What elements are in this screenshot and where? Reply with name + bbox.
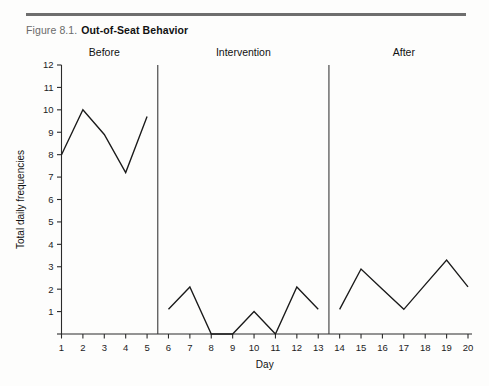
x-tick-label: 12 [292, 342, 303, 353]
y-axis-ticks [57, 65, 62, 334]
line-chart: 123456789101112 123456789101112131415161… [0, 40, 489, 386]
x-tick-label: 14 [334, 342, 345, 353]
x-tick-label: 10 [249, 342, 260, 353]
x-axis-ticks [62, 334, 469, 339]
y-tick-label: 5 [48, 216, 53, 227]
y-tick-label: 7 [48, 171, 53, 182]
x-tick-label: 2 [80, 342, 85, 353]
x-tick-label: 17 [399, 342, 410, 353]
y-tick-label: 12 [43, 59, 54, 70]
x-axis-title: Day [256, 359, 274, 370]
x-tick-label: 1 [59, 342, 64, 353]
x-tick-label: 5 [144, 342, 149, 353]
data-series-group [62, 110, 469, 334]
figure-page: Figure 8.1.Out-of-Seat Behavior 12345678… [0, 0, 489, 386]
x-tick-label: 19 [441, 342, 452, 353]
y-tick-label: 3 [48, 261, 53, 272]
y-tick-label: 6 [48, 194, 53, 205]
x-tick-label: 9 [230, 342, 235, 353]
y-axis-title: Total daily frequencies [15, 150, 26, 249]
phase-label-after: After [393, 46, 416, 58]
x-tick-label: 4 [123, 342, 128, 353]
phase-labels: BeforeInterventionAfter [89, 46, 416, 58]
phase-label-before: Before [89, 46, 120, 58]
x-tick-label: 20 [463, 342, 474, 353]
x-tick-label: 11 [271, 342, 281, 353]
figure-caption: Figure 8.1.Out-of-Seat Behavior [26, 24, 188, 36]
y-tick-label: 1 [48, 306, 53, 317]
x-tick-label: 15 [356, 342, 367, 353]
x-tick-label: 3 [102, 342, 107, 353]
x-tick-label: 13 [313, 342, 324, 353]
x-tick-label: 8 [209, 342, 214, 353]
page-title: Out-of-Seat Behavior [81, 24, 188, 36]
data-line-intervention [168, 287, 318, 334]
data-line-after [340, 260, 468, 309]
y-tick-label: 8 [48, 149, 53, 160]
x-axis-tick-labels: 1234567891011121314151617181920 [59, 342, 473, 353]
figure-number: Figure 8.1. [26, 24, 77, 36]
header-rule [26, 13, 466, 16]
y-tick-label: 4 [48, 239, 53, 250]
y-tick-label: 2 [48, 284, 53, 295]
y-tick-label: 9 [48, 127, 53, 138]
x-tick-label: 7 [187, 342, 192, 353]
chart-container: 123456789101112 123456789101112131415161… [0, 40, 489, 386]
y-tick-label: 11 [44, 82, 54, 93]
x-tick-label: 6 [166, 342, 171, 353]
phase-label-intervention: Intervention [216, 46, 271, 58]
x-tick-label: 18 [420, 342, 431, 353]
data-line-before [62, 110, 148, 173]
x-tick-label: 16 [377, 342, 388, 353]
y-axis-tick-labels: 123456789101112 [43, 59, 54, 317]
y-tick-label: 10 [43, 104, 54, 115]
